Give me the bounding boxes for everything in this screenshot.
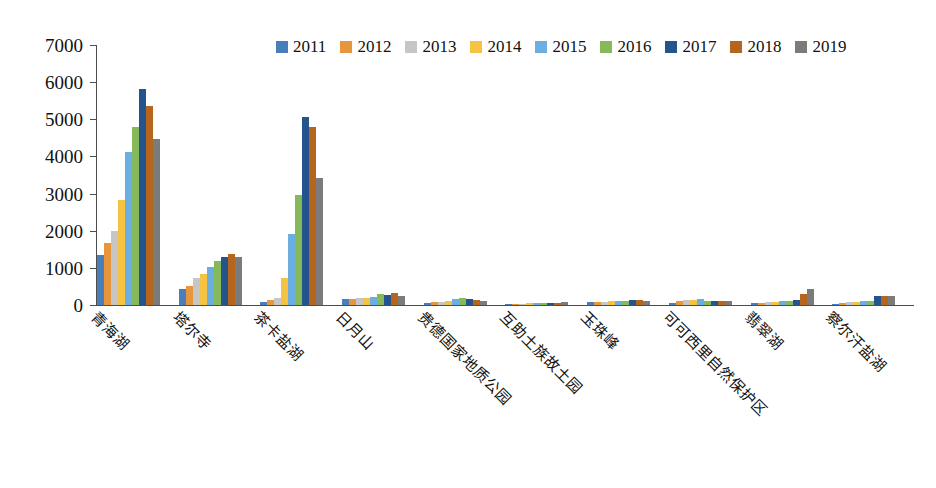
bar-2016[interactable] xyxy=(867,301,874,305)
bar-2018[interactable] xyxy=(146,106,153,305)
x-axis-label: 日月山 xyxy=(333,308,378,353)
bar-2017[interactable] xyxy=(547,303,554,305)
bar-2017[interactable] xyxy=(793,300,800,305)
bar-2013[interactable] xyxy=(765,302,772,305)
bar-2013[interactable] xyxy=(438,302,445,305)
x-axis-label: 塔尔寺 xyxy=(170,308,215,353)
bar-group xyxy=(587,45,669,305)
bar-2014[interactable] xyxy=(200,274,207,305)
bar-2019[interactable] xyxy=(398,296,405,305)
bar-2012[interactable] xyxy=(104,243,111,305)
bar-2016[interactable] xyxy=(377,294,384,305)
bar-2014[interactable] xyxy=(690,300,697,305)
bar-2015[interactable] xyxy=(697,299,704,305)
bar-2016[interactable] xyxy=(295,195,302,305)
bar-2016[interactable] xyxy=(704,301,711,305)
bar-2013[interactable] xyxy=(111,231,118,305)
bar-2018[interactable] xyxy=(473,300,480,305)
bar-2018[interactable] xyxy=(636,300,643,305)
bar-2011[interactable] xyxy=(179,289,186,305)
bar-2014[interactable] xyxy=(363,298,370,305)
bar-2019[interactable] xyxy=(888,296,895,305)
bar-2011[interactable] xyxy=(751,303,758,305)
bar-2015[interactable] xyxy=(370,297,377,305)
bar-2017[interactable] xyxy=(139,89,146,305)
bar-2019[interactable] xyxy=(725,301,732,305)
bar-2018[interactable] xyxy=(881,296,888,305)
bar-2018[interactable] xyxy=(800,294,807,305)
bar-2013[interactable] xyxy=(683,300,690,305)
bar-2014[interactable] xyxy=(118,200,125,305)
bar-2011[interactable] xyxy=(260,302,267,305)
bar-2017[interactable] xyxy=(711,301,718,305)
bar-2016[interactable] xyxy=(786,301,793,305)
bar-2016[interactable] xyxy=(214,261,221,305)
bar-2018[interactable] xyxy=(309,127,316,305)
bar-2019[interactable] xyxy=(316,178,323,305)
bar-2015[interactable] xyxy=(779,301,786,305)
bar-2015[interactable] xyxy=(288,234,295,305)
bar-2012[interactable] xyxy=(349,299,356,305)
bar-2013[interactable] xyxy=(846,302,853,305)
bar-2013[interactable] xyxy=(274,298,281,305)
bar-2015[interactable] xyxy=(860,301,867,305)
bar-2015[interactable] xyxy=(125,152,132,305)
bar-2014[interactable] xyxy=(772,302,779,305)
bar-2019[interactable] xyxy=(235,257,242,305)
bar-2019[interactable] xyxy=(480,301,487,305)
bar-2011[interactable] xyxy=(505,304,512,305)
bar-2011[interactable] xyxy=(97,255,104,305)
bar-group xyxy=(751,45,833,305)
bar-2015[interactable] xyxy=(533,303,540,305)
bar-2012[interactable] xyxy=(676,301,683,305)
bar-2019[interactable] xyxy=(561,302,568,305)
bar-2012[interactable] xyxy=(186,286,193,305)
bar-2018[interactable] xyxy=(554,303,561,305)
bar-2019[interactable] xyxy=(643,301,650,305)
bar-2011[interactable] xyxy=(669,303,676,305)
bar-2011[interactable] xyxy=(587,302,594,305)
bar-2016[interactable] xyxy=(540,303,547,305)
x-axis-line xyxy=(96,305,914,306)
bar-2014[interactable] xyxy=(445,301,452,305)
x-axis-label: 茶卡盐湖 xyxy=(251,308,307,364)
bar-2012[interactable] xyxy=(512,304,519,305)
bar-2012[interactable] xyxy=(839,303,846,305)
bar-2011[interactable] xyxy=(832,304,839,305)
bar-2012[interactable] xyxy=(431,302,438,305)
bar-2013[interactable] xyxy=(356,298,363,305)
bar-2014[interactable] xyxy=(281,278,288,305)
bar-2016[interactable] xyxy=(622,301,629,305)
bar-2014[interactable] xyxy=(608,301,615,305)
bar-group xyxy=(342,45,424,305)
bar-2015[interactable] xyxy=(207,267,214,305)
bar-2017[interactable] xyxy=(466,299,473,305)
x-axis-label: 翡翠湖 xyxy=(742,308,787,353)
bar-2015[interactable] xyxy=(615,301,622,305)
bar-2017[interactable] xyxy=(384,295,391,305)
bar-2014[interactable] xyxy=(853,302,860,305)
bar-2013[interactable] xyxy=(601,302,608,305)
bar-2015[interactable] xyxy=(452,299,459,305)
x-axis-label: 青海湖 xyxy=(88,308,133,353)
bar-2018[interactable] xyxy=(391,293,398,305)
bar-2018[interactable] xyxy=(228,254,235,305)
bar-2017[interactable] xyxy=(221,257,228,305)
bar-2013[interactable] xyxy=(519,304,526,305)
bar-2019[interactable] xyxy=(807,289,814,305)
bar-2012[interactable] xyxy=(267,300,274,305)
bar-2016[interactable] xyxy=(132,127,139,305)
bar-2017[interactable] xyxy=(302,117,309,305)
bar-2013[interactable] xyxy=(193,278,200,305)
bar-2016[interactable] xyxy=(459,298,466,305)
bar-2019[interactable] xyxy=(153,139,160,305)
bar-2014[interactable] xyxy=(526,303,533,305)
bar-2017[interactable] xyxy=(874,296,881,305)
bar-2018[interactable] xyxy=(718,301,725,305)
bar-2011[interactable] xyxy=(342,299,349,305)
bar-2011[interactable] xyxy=(424,303,431,305)
bar-2017[interactable] xyxy=(629,300,636,305)
y-tick-label: 0 xyxy=(74,296,84,315)
bar-2012[interactable] xyxy=(758,303,765,305)
bar-2012[interactable] xyxy=(594,302,601,305)
